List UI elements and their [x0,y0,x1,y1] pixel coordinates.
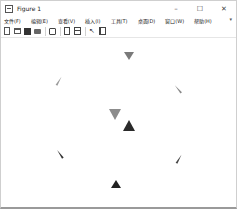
print-icon [34,29,41,34]
menu-edit[interactable]: 编辑(E) [31,17,48,24]
triangle-marker [56,149,63,158]
link-plot-button[interactable] [48,27,56,36]
new-file-icon [4,27,10,35]
triangle-marker [111,180,121,188]
menu-file[interactable]: 文件(F) [4,17,21,24]
link-plot-icon [49,28,56,35]
triangle-marker [176,154,183,164]
pointer-icon: ↖ [89,27,96,35]
insert-colorbar-button[interactable] [63,27,71,36]
triangle-marker [124,52,134,60]
open-file-button[interactable] [13,27,21,36]
triangle-marker [174,85,182,94]
matlab-figure-icon [5,5,13,13]
figure-toolbar: ↖ [1,25,236,38]
menu-insert[interactable]: 插入(I) [85,17,100,24]
toolbar-separator [60,27,61,36]
save-icon [24,28,31,35]
menu-bar: 文件(F) 编辑(E) 查看(V) 插入(I) 工具(T) 桌面(D) 窗口(W… [1,16,236,25]
save-figure-button[interactable] [23,27,31,36]
new-figure-button[interactable] [3,27,11,36]
toolbar-separator [85,27,86,36]
menu-tools[interactable]: 工具(T) [111,17,128,24]
open-folder-icon [14,28,21,34]
triangle-marker [123,120,135,131]
property-editor-icon [99,27,106,35]
menu-window[interactable]: 窗口(W) [165,17,184,24]
property-editor-button[interactable] [98,27,106,36]
plot-canvas[interactable] [2,39,236,207]
title-bar[interactable]: Figure 1 – ☐ ✕ [1,1,236,16]
edit-plot-button[interactable]: ↖ [88,27,96,36]
window-controls: – ☐ ✕ [164,1,236,16]
menu-view[interactable]: 查看(V) [58,17,75,24]
menu-overflow-icon[interactable]: ▾ [229,16,232,22]
insert-legend-button[interactable] [73,27,81,36]
minimize-button[interactable]: – [164,1,188,16]
figure-window: Figure 1 – ☐ ✕ 文件(F) 编辑(E) 查看(V) 插入(I) 工… [0,0,237,209]
menu-help[interactable]: 帮助(H) [194,17,212,24]
legend-panel-icon [74,27,81,35]
window-title: Figure 1 [17,5,41,12]
triangle-marker [56,76,63,86]
document-icon [64,27,70,35]
print-figure-button[interactable] [33,27,41,36]
menu-desktop[interactable]: 桌面(D) [138,17,156,24]
triangle-marker [109,109,121,120]
close-button[interactable]: ✕ [212,1,236,16]
maximize-button[interactable]: ☐ [188,1,212,16]
toolbar-separator [45,27,46,36]
